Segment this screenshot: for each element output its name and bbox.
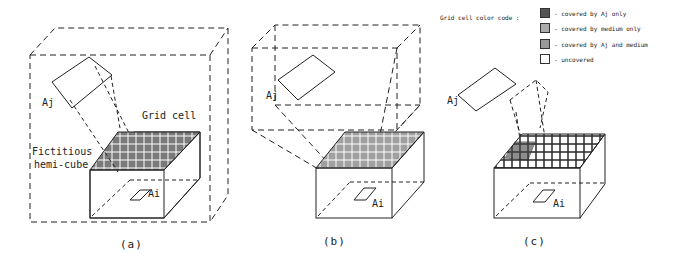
hemicube-label-2: hemi-cube — [34, 159, 88, 170]
panel-c-ai-label: Ai — [553, 198, 565, 209]
panel-a-outer-cube — [30, 28, 228, 222]
panel-c-aj-label: Aj — [447, 95, 459, 106]
swatch-light-icon — [540, 23, 550, 33]
legend-item-aj-only: - covered by Aj only — [540, 8, 626, 18]
panel-a-grid-top — [90, 132, 200, 170]
panel-a-aj-label: Aj — [42, 97, 54, 108]
panel-a-caption: (a) — [120, 238, 143, 251]
swatch-white-icon — [540, 54, 550, 64]
panel-b-aj-label: Aj — [266, 90, 278, 101]
legend-title: Grid cell color code : — [440, 14, 519, 21]
panel-c-caption: (c) — [523, 235, 546, 248]
hemicube-label-1: Fictitious — [32, 146, 92, 157]
panel-b-caption: (b) — [323, 235, 346, 248]
swatch-dark-icon — [540, 8, 550, 18]
swatch-mid-icon — [540, 39, 550, 49]
legend-item-medium-only: - covered by medium only — [540, 23, 641, 33]
panel-c-aj-patch — [458, 68, 516, 111]
legend-item-aj-and-medium: - covered by Aj and medium — [540, 39, 648, 49]
grid-cell-label: Grid cell — [142, 110, 196, 121]
legend-item-uncovered: - uncovered — [540, 54, 594, 64]
panel-a-ai-label: Ai — [148, 188, 160, 199]
panel-b-ai-label: Ai — [372, 198, 384, 209]
panel-a-aj-patch — [52, 57, 112, 108]
